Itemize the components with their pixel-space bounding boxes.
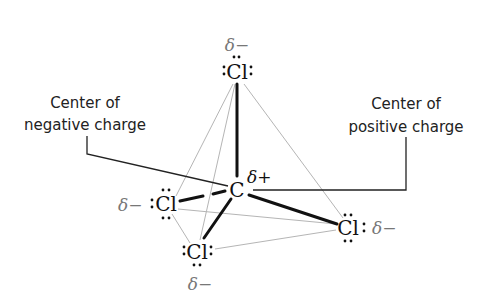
atom-symbol: Cl [337,216,359,240]
lone-pair-dot [199,264,202,267]
bonds [180,84,337,238]
lone-pair-dot [162,189,165,192]
lone-pair-dot [151,206,154,209]
lone-pair-dot [223,73,226,76]
edge-bottom-right [215,230,336,249]
lone-pair-dot [193,264,196,267]
lone-pair-dot [210,253,213,256]
partial-charge-right: δ− [372,218,396,238]
lone-pair-dot [223,66,226,69]
atom-symbol: Cl [186,240,208,264]
lone-pair-dot [233,56,236,59]
atom-symbol: C [229,178,244,202]
svg-text:Center of: Center of [50,94,120,112]
lone-pair-dot [151,199,154,202]
svg-text:positive charge: positive charge [348,118,463,136]
lone-pair-dot [363,230,366,233]
lone-pair-dot [168,189,171,192]
lone-pair-dot [210,246,213,249]
bond-c-left-b [213,191,225,194]
partial-charge-left: δ− [118,195,142,215]
svg-text:Center of: Center of [371,95,441,113]
lone-pair-dot [183,253,186,256]
edge-top-left [176,84,233,196]
atom-symbol: Cl [226,60,248,84]
lone-pair-dot [250,73,253,76]
atom-cl-left: δ− Cl [118,189,177,220]
lone-pair-dot [183,246,186,249]
lone-pair-dot [238,56,241,59]
lone-pair-dot [168,217,171,220]
atom-cl-right: Cl δ− [337,214,396,243]
atom-cl-top: δ− Cl [223,35,253,84]
center-of-negative-charge-label: Center of negative charge [24,94,146,134]
edge-left-bottom [172,214,190,243]
lone-pair-dot [363,223,366,226]
lone-pair-dot [250,66,253,69]
partial-charge-top: δ− [225,35,249,55]
negative-center-leader [87,136,228,186]
lone-pair-dot [350,240,353,243]
center-of-positive-charge-label: Center of positive charge [348,95,463,136]
lone-pair-dot [162,217,165,220]
atom-symbol: Cl [155,192,177,216]
partial-charge-bottom: δ− [188,274,212,294]
lone-pair-dot [344,240,347,243]
svg-text:negative charge: negative charge [24,116,146,134]
ccl4-dipole-diagram: Center of negative charge Center of posi… [0,0,496,299]
atom-cl-bottom: Cl δ− [183,240,213,294]
bond-c-left-a [180,196,203,201]
partial-charge-positive: δ+ [247,167,271,187]
positive-center-leader [253,137,406,190]
